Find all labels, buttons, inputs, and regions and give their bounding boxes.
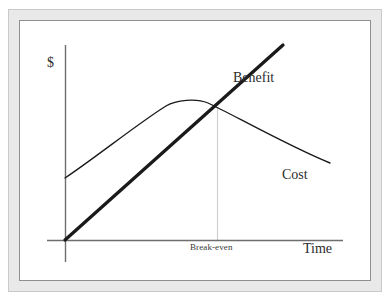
chart-svg [0, 0, 391, 302]
series-label-cost: Cost [282, 168, 308, 182]
y-axis-label: $ [47, 56, 54, 70]
annotation-breakeven-label: Break-even [190, 243, 232, 252]
figure-root: $ Time Benefit Cost Break-even [0, 0, 391, 302]
plot-area: $ Time Benefit Cost Break-even [0, 0, 391, 302]
series-label-benefit: Benefit [233, 71, 274, 85]
x-axis-label: Time [303, 242, 332, 256]
